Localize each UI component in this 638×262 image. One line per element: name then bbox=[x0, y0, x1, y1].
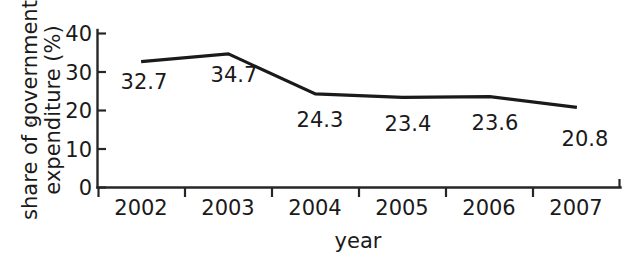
y-axis-label-line2: expenditure (%) bbox=[41, 25, 65, 194]
x-tick-label-2003: 2003 bbox=[201, 196, 254, 220]
point-label-2003: 34.7 bbox=[211, 63, 258, 87]
point-label-2002: 32.7 bbox=[121, 70, 168, 94]
point-label-2007: 20.8 bbox=[562, 127, 609, 151]
y-axis-label-line1: share of government bbox=[18, 0, 42, 220]
x-axis-label: year bbox=[335, 229, 382, 253]
scan-speck bbox=[29, 121, 32, 124]
x-tick-label-2007: 2007 bbox=[549, 196, 602, 220]
y-tick-label-20: 20 bbox=[65, 99, 92, 123]
line-chart: share of government expenditure (%) 40 3… bbox=[0, 0, 638, 262]
data-series-line bbox=[141, 54, 577, 108]
chart-figure: share of government expenditure (%) 40 3… bbox=[0, 0, 638, 262]
y-tick-label-40: 40 bbox=[65, 22, 92, 46]
x-tick-label-2004: 2004 bbox=[288, 196, 341, 220]
point-label-2006: 23.6 bbox=[472, 111, 519, 135]
point-label-2004: 24.3 bbox=[297, 108, 344, 132]
x-tick-label-2005: 2005 bbox=[375, 196, 428, 220]
point-label-2005: 23.4 bbox=[385, 112, 432, 136]
y-tick-label-10: 10 bbox=[65, 138, 92, 162]
x-tick-label-2002: 2002 bbox=[114, 196, 167, 220]
y-tick-label-0: 0 bbox=[79, 176, 92, 200]
y-tick-label-30: 30 bbox=[65, 61, 92, 85]
x-tick-label-2006: 2006 bbox=[462, 196, 515, 220]
